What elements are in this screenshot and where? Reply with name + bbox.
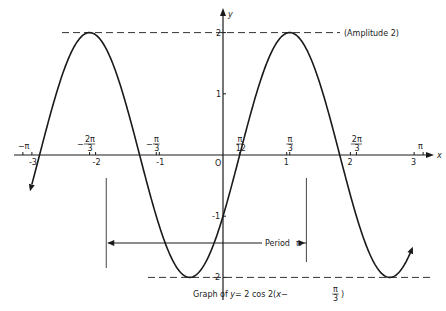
- pi-tick-label: −π: [18, 142, 30, 151]
- pi-tick-numerator: 2π: [352, 135, 362, 144]
- caption-close: ): [341, 290, 344, 299]
- x-axis-arrow-icon: [426, 152, 434, 158]
- y-axis-label: y: [227, 10, 233, 19]
- pi-tick-numerator: π: [154, 135, 159, 144]
- pi-tick-denominator: 12: [236, 144, 246, 153]
- pi-tick-sign: −: [77, 140, 84, 149]
- pi-tick-denominator: 3: [354, 144, 359, 153]
- x-tick-label: 3: [411, 158, 416, 167]
- axes: yx: [14, 8, 442, 300]
- period-symbol: π: [296, 239, 301, 248]
- pi-tick-sign: −: [146, 140, 153, 149]
- pi-tick-numerator: 2π: [85, 135, 95, 144]
- pi-tick-denominator: 3: [88, 144, 93, 153]
- pi-tick-denominator: 3: [154, 144, 159, 153]
- arrow-left-icon: [107, 240, 114, 246]
- x-tick-label: 1: [284, 158, 289, 167]
- period-label: Period: [265, 239, 290, 248]
- pi-tick-label: π: [418, 142, 423, 151]
- cosine-graph: yx Periodπ -3-2-1123−π2π3−π3−π12π32π3π21…: [0, 0, 446, 311]
- x-tick-label: -3: [29, 158, 37, 167]
- amplitude-annotation: (Amplitude 2): [344, 29, 399, 38]
- x-axis-label: x: [436, 151, 442, 160]
- y-tick-label: 1: [216, 90, 221, 99]
- caption-frac-num: π: [333, 285, 338, 294]
- curve-arrow-icon: [407, 247, 413, 255]
- x-tick-label: 2: [347, 158, 352, 167]
- caption-frac-den: 3: [333, 294, 338, 303]
- x-tick-label: -1: [156, 158, 164, 167]
- y-tick-label: -1: [212, 212, 220, 221]
- x-tick-label: -2: [93, 158, 101, 167]
- pi-tick-denominator: 3: [288, 144, 293, 153]
- y-tick-label: -2: [212, 273, 220, 282]
- curve-arrow-icon: [29, 184, 35, 192]
- origin-label: O: [215, 159, 221, 168]
- y-tick-label: 2: [216, 29, 221, 38]
- period-marker: Periodπ: [106, 178, 306, 268]
- pi-tick-numerator: π: [237, 135, 242, 144]
- y-axis-arrow-icon: [220, 8, 226, 16]
- graph-caption: Graph of y= 2 cos 2(x−: [193, 290, 288, 299]
- pi-tick-numerator: π: [287, 135, 292, 144]
